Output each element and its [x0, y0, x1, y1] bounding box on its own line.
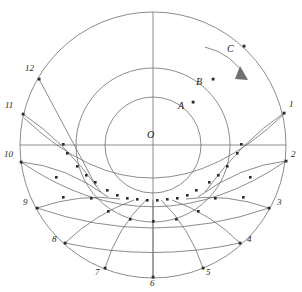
- marked-label-C: C: [227, 44, 234, 54]
- rim-label-11: 11: [5, 101, 13, 110]
- marked-label-A: A: [178, 101, 184, 111]
- rim-dot-1[interactable]: [283, 112, 286, 115]
- rim-dot-10[interactable]: [20, 161, 23, 164]
- center-label-O: O: [147, 130, 154, 140]
- rim-label-3: 3: [277, 198, 282, 207]
- rim-dot-2[interactable]: [285, 160, 288, 163]
- marked-dot-B[interactable]: [212, 78, 215, 81]
- rim-dot-12[interactable]: [38, 78, 41, 81]
- rim-label-12: 12: [25, 64, 34, 73]
- rim-label-10: 10: [4, 150, 13, 159]
- rim-label-2: 2: [291, 150, 296, 159]
- rim-dot-11[interactable]: [22, 113, 25, 116]
- rim-dot-8[interactable]: [64, 242, 67, 245]
- rim-dot-5[interactable]: [202, 267, 205, 270]
- rim-label-5: 5: [206, 268, 211, 277]
- rim-dot-9[interactable]: [36, 207, 39, 210]
- marked-label-B: B: [196, 77, 202, 87]
- marked-dot-A[interactable]: [192, 101, 195, 104]
- rim-label-4: 4: [247, 235, 252, 244]
- marked-dot-C[interactable]: [243, 45, 246, 48]
- rim-label-1: 1: [289, 100, 294, 109]
- rim-dot-4[interactable]: [239, 242, 242, 245]
- rim-dot-3[interactable]: [268, 207, 271, 210]
- rim-label-6: 6: [150, 279, 155, 288]
- rim-label-7: 7: [95, 268, 100, 277]
- diagram-canvas: 1 2 3 4 5 6 7 8 9 10 11 12 A B C O: [0, 0, 302, 292]
- rim-label-8: 8: [52, 235, 57, 244]
- rim-label-9: 9: [23, 198, 28, 207]
- rim-dot-7[interactable]: [104, 267, 107, 270]
- rim-dots-layer: [0, 0, 302, 292]
